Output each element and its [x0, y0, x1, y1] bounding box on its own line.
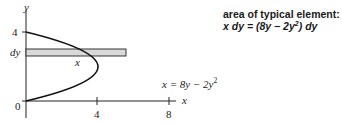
- annotation-title: area of typical element:: [223, 8, 340, 20]
- y-tick-label-4: 4: [12, 26, 18, 38]
- area-annotation: area of typical element: x dy = (8y − 2y…: [223, 8, 340, 32]
- curve-equation: x = 8y − 2y2: [161, 76, 218, 90]
- y-axis-label: y: [23, 1, 29, 13]
- annotation-formula: x dy = (8y − 2y2) dy: [223, 20, 340, 32]
- parabola-curve: [26, 32, 98, 101]
- x-tick-label-4: 4: [94, 108, 100, 120]
- formula-part1: x dy = (8y − 2y: [223, 20, 295, 32]
- x-axis-label: x: [181, 94, 187, 106]
- x-tick-label-8: 8: [166, 108, 172, 120]
- formula-part2: ) dy: [299, 20, 318, 32]
- typical-element-strip: [26, 49, 126, 56]
- curve-equation-exponent: 2: [214, 76, 218, 85]
- curve-equation-text: x = 8y − 2y: [161, 78, 214, 90]
- dy-label: dy: [10, 46, 21, 58]
- strip-length-label: x: [74, 56, 80, 68]
- origin-label: 0: [15, 100, 21, 112]
